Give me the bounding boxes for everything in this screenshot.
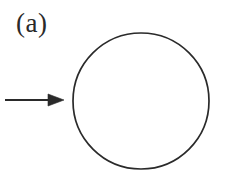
figure-canvas: (a)	[0, 0, 228, 182]
panel-label: (a)	[16, 10, 47, 37]
arrow-head-icon	[48, 94, 64, 106]
circle-outline	[73, 33, 209, 169]
